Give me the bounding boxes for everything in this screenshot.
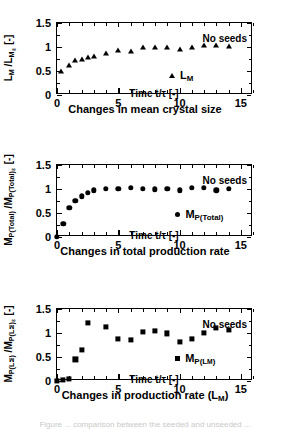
- y-axis-title-2: MP(LM) /MP(LM)∞ [-]: [2, 308, 16, 380]
- y-axis-title-0: LM /LM∞ [-]: [2, 22, 16, 94]
- y-tick-minor: [57, 345, 60, 346]
- x-tick-minor-top: [204, 309, 205, 312]
- x-tick-minor-top: [143, 23, 144, 26]
- y-tick-major-right: [247, 47, 251, 48]
- y-tick-minor: [57, 321, 60, 322]
- x-tick-minor-top: [82, 165, 83, 168]
- data-point: [85, 190, 90, 195]
- panel-caption-2: Changes in production rate (LM): [0, 390, 290, 401]
- data-point: [128, 338, 133, 343]
- data-point: [226, 186, 231, 191]
- x-tick-major-top: [180, 23, 181, 27]
- legend-label: MP(LM): [185, 353, 215, 364]
- y-tick-minor: [57, 369, 60, 370]
- panel-caption-0: Changes in mean crystal size: [0, 104, 290, 115]
- x-tick-minor-top: [253, 309, 254, 312]
- y-tick-label: 0: [45, 376, 51, 387]
- y-tick-major-right: [247, 357, 251, 358]
- y-tick-label: 1: [45, 184, 51, 195]
- y-tick-minor-right: [249, 83, 252, 84]
- x-tick-minor-top: [82, 309, 83, 312]
- data-point: [73, 198, 78, 203]
- x-tick-minor-top: [106, 23, 107, 26]
- legend: MP(LM): [175, 353, 215, 364]
- data-point: [152, 328, 157, 333]
- x-tick-minor-top: [69, 165, 70, 168]
- x-tick-minor-top: [94, 309, 95, 312]
- legend-marker-circle-icon: [175, 212, 180, 217]
- y-tick-major: [57, 309, 62, 310]
- data-point: [177, 46, 183, 51]
- data-point: [116, 186, 121, 191]
- y-tick-minor-right: [249, 177, 252, 178]
- y-tick-label: 0.5: [36, 208, 51, 219]
- y-tick-label: 1: [45, 42, 51, 53]
- x-tick-minor-top: [229, 23, 230, 26]
- x-tick-minor-top: [216, 309, 217, 312]
- data-point: [115, 48, 121, 53]
- x-tick-minor-top: [94, 165, 95, 168]
- x-tick-major-top: [241, 165, 242, 169]
- y-tick-minor-right: [249, 369, 252, 370]
- y-tick-label: 0.5: [36, 66, 51, 77]
- y-tick-minor: [57, 83, 60, 84]
- data-point: [201, 330, 206, 335]
- legend-label: MP(Total): [185, 209, 223, 220]
- y-tick-minor: [57, 201, 60, 202]
- data-point: [128, 185, 133, 190]
- data-point: [152, 187, 157, 192]
- chart-panel-total-production-rate: MP(Total) /MP(Total)∞ [-] 05101500.511.5…: [0, 142, 290, 282]
- x-tick-minor-top: [167, 309, 168, 312]
- x-tick-minor-top: [253, 165, 254, 168]
- legend: LM: [169, 70, 193, 81]
- x-tick-minor-top: [204, 23, 205, 26]
- data-point: [91, 188, 96, 193]
- data-point: [103, 50, 109, 55]
- x-tick-minor: [253, 90, 254, 93]
- x-tick-major-top: [180, 309, 181, 313]
- y-tick-label: 1: [45, 328, 51, 339]
- plot-area-2: 05101500.511.5No seedsMP(LM): [57, 309, 251, 379]
- y-tick-major: [57, 213, 62, 214]
- y-tick-minor: [57, 177, 60, 178]
- annotation-no-seeds: No seeds: [203, 34, 247, 44]
- legend: MP(Total): [175, 209, 223, 220]
- x-tick-minor-top: [131, 23, 132, 26]
- x-tick-minor-top: [204, 165, 205, 168]
- data-point: [164, 44, 170, 49]
- data-point: [73, 357, 78, 362]
- data-point: [79, 193, 84, 198]
- y-tick-minor-right: [249, 225, 252, 226]
- x-tick-minor-top: [82, 23, 83, 26]
- x-tick-major-top: [241, 23, 242, 27]
- y-tick-major: [57, 333, 62, 334]
- y-tick-major: [57, 23, 62, 24]
- x-tick-minor-top: [143, 165, 144, 168]
- x-axis-title-2: Time t/τ [-]: [56, 375, 252, 385]
- legend-marker-triangle-icon: [169, 73, 175, 78]
- data-point: [103, 186, 108, 191]
- x-tick-minor-top: [69, 23, 70, 26]
- data-point: [91, 53, 97, 58]
- y-tick-major-right: [247, 165, 251, 166]
- x-tick-minor-top: [216, 23, 217, 26]
- y-tick-label: 0: [45, 232, 51, 243]
- x-tick-minor-top: [192, 309, 193, 312]
- x-tick-minor-top: [143, 309, 144, 312]
- y-tick-minor-right: [249, 201, 252, 202]
- y-tick-minor: [57, 59, 60, 60]
- data-point: [189, 45, 195, 50]
- data-point: [177, 188, 182, 193]
- y-tick-major: [57, 189, 62, 190]
- y-tick-minor: [57, 35, 60, 36]
- x-tick-minor-top: [94, 23, 95, 26]
- x-tick-minor-top: [155, 309, 156, 312]
- x-tick-major-top: [241, 309, 242, 313]
- y-tick-minor-right: [249, 321, 252, 322]
- y-tick-major-right: [247, 71, 251, 72]
- y-tick-label: 1.5: [36, 304, 51, 315]
- data-point: [152, 44, 158, 49]
- data-point: [79, 347, 84, 352]
- legend-label: LM: [180, 70, 193, 81]
- y-tick-major: [57, 165, 62, 166]
